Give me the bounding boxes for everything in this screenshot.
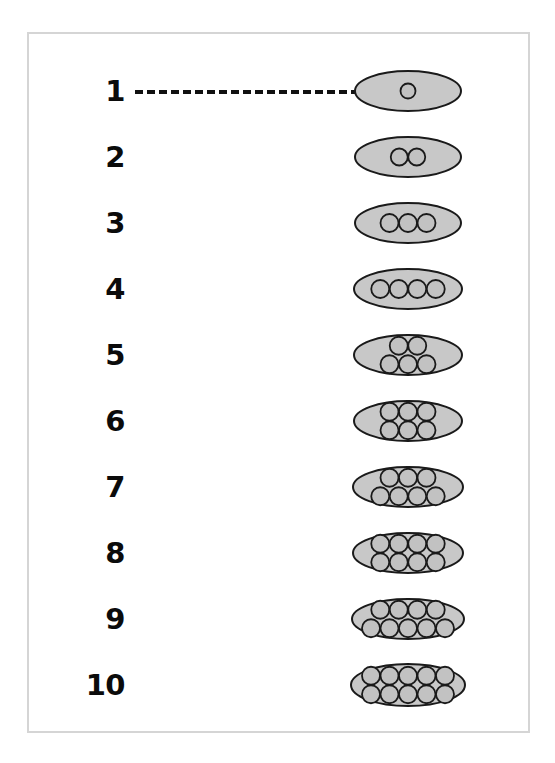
inner-circle <box>362 667 380 685</box>
row-number-label: 10 <box>55 652 125 718</box>
row-number-label: 8 <box>55 520 125 586</box>
inner-circle <box>408 553 426 571</box>
inner-circle <box>391 149 408 166</box>
inner-circle <box>390 601 408 619</box>
inner-circle <box>436 619 454 637</box>
dashed-connector-line <box>135 90 359 94</box>
inner-circle <box>418 421 436 439</box>
inner-circle <box>371 553 389 571</box>
inner-circle <box>381 421 399 439</box>
inner-circle <box>436 685 454 703</box>
row-number-label: 4 <box>55 256 125 322</box>
inner-circle <box>381 469 399 487</box>
ellipse-cluster <box>338 322 478 388</box>
inner-circle <box>362 619 380 637</box>
diagram-row: 7 <box>0 454 555 520</box>
cluster-svg <box>338 256 478 322</box>
inner-circle <box>418 403 436 421</box>
diagram-rows-container: 12345678910 <box>0 0 555 763</box>
inner-circle <box>362 685 380 703</box>
cluster-svg <box>338 190 478 256</box>
diagram-row: 1 <box>0 58 555 124</box>
row-number-label: 3 <box>55 190 125 256</box>
ellipse-cluster <box>338 586 478 652</box>
inner-circle <box>399 355 417 373</box>
inner-circle <box>390 337 408 355</box>
inner-circle <box>418 214 436 232</box>
inner-circle <box>371 280 389 298</box>
row-number-label: 5 <box>55 322 125 388</box>
inner-circle <box>427 601 445 619</box>
inner-circle <box>381 403 399 421</box>
inner-circle <box>399 214 417 232</box>
inner-circle <box>390 553 408 571</box>
inner-circle <box>408 337 426 355</box>
diagram-row: 10 <box>0 652 555 718</box>
cluster-svg <box>338 454 478 520</box>
inner-circle <box>399 403 417 421</box>
inner-circle <box>427 553 445 571</box>
inner-circle <box>408 149 425 166</box>
inner-circle <box>390 487 408 505</box>
diagram-row: 3 <box>0 190 555 256</box>
inner-circle <box>427 280 445 298</box>
ellipse-cluster <box>338 58 478 124</box>
inner-circle <box>381 619 399 637</box>
ellipse-cluster <box>338 652 478 718</box>
inner-circle <box>381 685 399 703</box>
cluster-svg <box>338 520 478 586</box>
inner-circle <box>399 421 417 439</box>
cluster-svg <box>338 652 478 718</box>
inner-circle <box>427 487 445 505</box>
ellipse-cluster <box>338 388 478 454</box>
inner-circle <box>390 535 408 553</box>
cluster-svg <box>338 58 478 124</box>
cluster-svg <box>338 322 478 388</box>
inner-circle <box>408 487 426 505</box>
diagram-row: 8 <box>0 520 555 586</box>
cluster-svg <box>338 586 478 652</box>
inner-circle <box>401 84 416 99</box>
diagram-row: 2 <box>0 124 555 190</box>
diagram-row: 4 <box>0 256 555 322</box>
inner-circle <box>381 667 399 685</box>
inner-circle <box>381 355 399 373</box>
inner-circle <box>399 619 417 637</box>
row-number-label: 6 <box>55 388 125 454</box>
inner-circle <box>418 619 436 637</box>
inner-circle <box>399 469 417 487</box>
cluster-svg <box>338 388 478 454</box>
inner-circle <box>371 487 389 505</box>
ellipse-cluster <box>338 124 478 190</box>
inner-circle <box>408 280 426 298</box>
row-number-label: 7 <box>55 454 125 520</box>
ellipse-cluster <box>338 520 478 586</box>
diagram-row: 9 <box>0 586 555 652</box>
inner-circle <box>371 601 389 619</box>
ellipse-cluster <box>338 190 478 256</box>
inner-circle <box>418 469 436 487</box>
inner-circle <box>436 667 454 685</box>
inner-circle <box>418 685 436 703</box>
ellipse-cluster <box>338 454 478 520</box>
cluster-svg <box>338 124 478 190</box>
inner-circle <box>418 355 436 373</box>
row-number-label: 1 <box>55 58 125 124</box>
inner-circle <box>408 601 426 619</box>
ellipse-cluster <box>338 256 478 322</box>
inner-circle <box>427 535 445 553</box>
inner-circle <box>408 535 426 553</box>
inner-circle <box>399 667 417 685</box>
inner-circle <box>371 535 389 553</box>
container-ellipse <box>353 533 463 573</box>
row-number-label: 9 <box>55 586 125 652</box>
row-number-label: 2 <box>55 124 125 190</box>
diagram-row: 6 <box>0 388 555 454</box>
inner-circle <box>381 214 399 232</box>
inner-circle <box>399 685 417 703</box>
inner-circle <box>418 667 436 685</box>
diagram-row: 5 <box>0 322 555 388</box>
inner-circle <box>390 280 408 298</box>
